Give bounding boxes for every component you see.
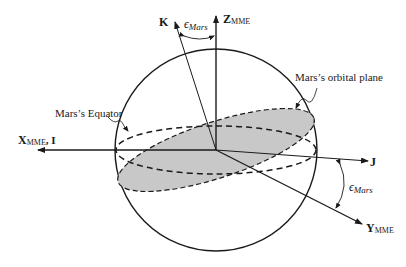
epsilon-right-label: ϵMars bbox=[349, 180, 373, 195]
y-axis-label: YMME bbox=[366, 221, 394, 235]
epsilon-arc-top bbox=[184, 36, 214, 39]
x-axis-label: XMME, I bbox=[18, 133, 56, 147]
equator-label: Mars’s Equator bbox=[55, 107, 123, 119]
orbital-plane-label: Mars’s orbital plane bbox=[295, 71, 383, 83]
mars-frame-diagram: K ZMME ϵMars XMME, I J YMME ϵMars Mars’s… bbox=[0, 0, 406, 267]
z-axis-label: ZMME bbox=[223, 12, 250, 26]
epsilon-top-label: ϵMars bbox=[184, 17, 208, 32]
epsilon-arc-right bbox=[336, 164, 344, 208]
k-axis-label: K bbox=[159, 15, 169, 29]
j-axis-label: J bbox=[370, 155, 376, 169]
y-axis bbox=[216, 150, 362, 224]
